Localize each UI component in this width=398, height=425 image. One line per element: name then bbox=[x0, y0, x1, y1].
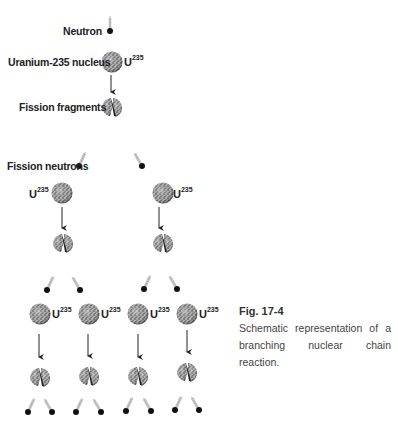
uranium-nucleus-icon bbox=[128, 304, 149, 325]
fission-neutron-icon bbox=[123, 397, 133, 414]
fission-fragments-icon bbox=[128, 367, 148, 386]
fission-neutron-icon bbox=[169, 276, 180, 292]
fission-neutron-icon bbox=[93, 399, 104, 415]
fission-neutron-icon bbox=[172, 396, 182, 413]
uranium-nucleus-icon bbox=[30, 304, 51, 325]
uranium-nucleus-icon bbox=[153, 183, 174, 204]
isotope-label: U235 bbox=[101, 307, 121, 320]
fission-neutron-icon bbox=[44, 276, 54, 293]
fission-neutrons-label: Fission neutrons bbox=[7, 160, 88, 172]
fission-fragments-label: Fission fragments bbox=[19, 101, 106, 113]
fission-neutron-icon bbox=[141, 275, 151, 292]
isotope-label: U235 bbox=[150, 307, 170, 320]
fission-fragments-icon bbox=[177, 363, 197, 382]
isotope-label: U235 bbox=[29, 187, 49, 200]
fission-neutron-icon bbox=[143, 398, 154, 414]
uranium-nucleus-icon bbox=[177, 304, 198, 325]
caption-text: Schematic representation of a branching … bbox=[239, 320, 391, 371]
fission-neutron-icon bbox=[72, 277, 83, 293]
fission-fragments-icon bbox=[79, 367, 99, 386]
fission-fragments-icon bbox=[30, 368, 50, 387]
isotope-label: U235 bbox=[52, 307, 72, 320]
fission-fragments-icon bbox=[53, 234, 73, 253]
uranium-nucleus-icon bbox=[52, 183, 73, 204]
fission-fragments-icon bbox=[153, 234, 173, 253]
incoming-neutron-icon bbox=[107, 16, 113, 34]
isotope-label: U235 bbox=[173, 187, 193, 200]
neutron-label: Neutron bbox=[63, 25, 102, 37]
isotope-label: U235 bbox=[124, 55, 144, 68]
fission-neutron-icon bbox=[44, 399, 55, 415]
uranium-nucleus-label: Uranium-235 nucleus bbox=[8, 56, 110, 68]
figure-caption: Fig. 17-4 Schematic representation of a … bbox=[239, 303, 391, 371]
fission-neutron-icon bbox=[25, 398, 35, 415]
isotope-label: U235 bbox=[199, 307, 219, 320]
fission-neutron-icon bbox=[134, 153, 145, 169]
fission-neutron-icon bbox=[73, 398, 83, 415]
caption-title: Fig. 17-4 bbox=[239, 303, 391, 320]
uranium-nucleus-icon bbox=[79, 304, 100, 325]
fission-neutron-icon bbox=[191, 397, 202, 413]
